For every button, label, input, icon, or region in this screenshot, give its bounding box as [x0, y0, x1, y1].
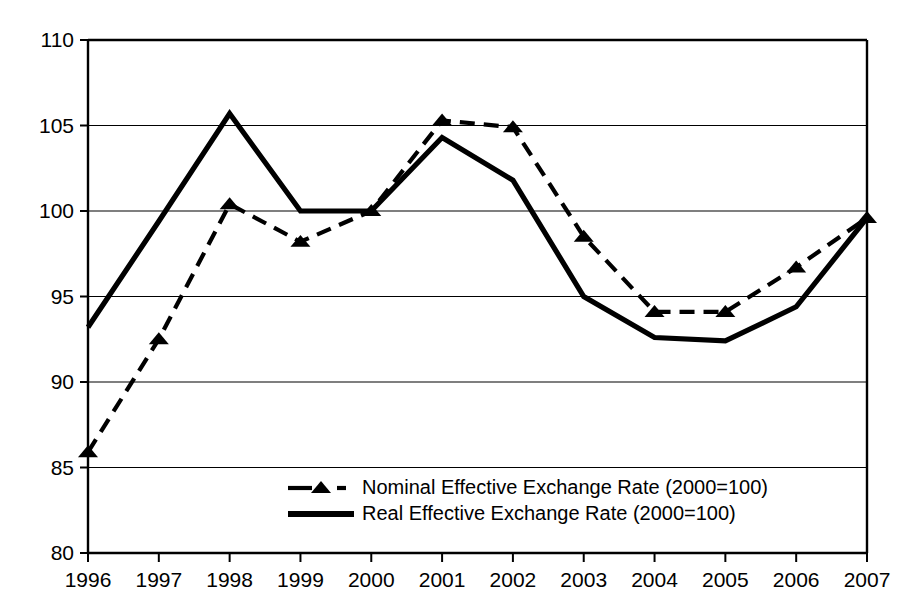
x-tick-label: 2007 [844, 568, 891, 591]
series-marker [78, 445, 98, 457]
legend-label: Nominal Effective Exchange Rate (2000=10… [362, 476, 768, 498]
y-tick-label: 90 [51, 370, 74, 393]
line-chart: 80859095100105110 1996199719981999200020… [0, 0, 909, 615]
chart-legend: Nominal Effective Exchange Rate (2000=10… [288, 476, 768, 524]
x-tick-label: 1998 [206, 568, 253, 591]
series-marker [503, 120, 523, 132]
x-tick-label: 2004 [631, 568, 678, 591]
x-tick-label: 2003 [560, 568, 607, 591]
series-marker [786, 261, 806, 273]
y-tick-label: 95 [51, 285, 74, 308]
legend-label: Real Effective Exchange Rate (2000=100) [362, 502, 736, 524]
x-tick-label: 1996 [65, 568, 112, 591]
legend-item: Nominal Effective Exchange Rate (2000=10… [288, 476, 768, 498]
legend-item: Real Effective Exchange Rate (2000=100) [288, 502, 736, 524]
series-marker [574, 230, 594, 242]
y-axis-tick-labels: 80859095100105110 [39, 28, 74, 564]
series-line-1 [88, 120, 867, 452]
y-tick-label: 100 [39, 199, 74, 222]
x-tick-marks-group [88, 553, 867, 562]
x-tick-label: 2002 [490, 568, 537, 591]
chart-container: 80859095100105110 1996199719981999200020… [0, 0, 909, 615]
x-tick-label: 2005 [702, 568, 749, 591]
x-tick-label: 2001 [419, 568, 466, 591]
x-tick-label: 2006 [773, 568, 820, 591]
series-marker [149, 332, 169, 344]
x-axis-tick-labels: 1996199719981999200020012002200320042005… [65, 568, 891, 591]
y-tick-label: 105 [39, 114, 74, 137]
series-line-2 [88, 114, 867, 341]
y-tick-label: 110 [41, 28, 74, 51]
series-marker [220, 197, 240, 209]
x-tick-label: 1997 [135, 568, 182, 591]
y-tick-label: 85 [51, 456, 74, 479]
x-tick-label: 1999 [277, 568, 324, 591]
legend-swatch-triangle-icon [311, 481, 331, 493]
x-tick-label: 2000 [348, 568, 395, 591]
data-series-layer [78, 113, 877, 457]
y-tick-label: 80 [51, 541, 74, 564]
